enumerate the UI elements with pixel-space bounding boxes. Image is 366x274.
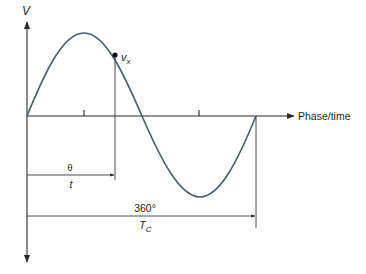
vx-label-subscript: x	[126, 57, 132, 66]
vx-label: vx	[121, 51, 132, 66]
tc-label: TC	[139, 219, 152, 234]
vertical-axis-label: V	[22, 4, 31, 18]
theta-label: θ	[67, 162, 72, 173]
sine-wave-diagram: V Phase/time vx θ t 360° TC	[0, 0, 366, 274]
horizontal-axis-label: Phase/time	[298, 110, 351, 122]
t-label: t	[70, 178, 74, 190]
sine-wave-curve	[27, 33, 256, 197]
tc-label-subscript: C	[146, 225, 152, 234]
360-degree-label: 360°	[134, 202, 156, 214]
vx-point	[112, 52, 117, 57]
